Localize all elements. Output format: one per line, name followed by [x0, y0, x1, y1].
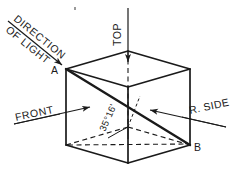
right-side-label-underline [182, 117, 226, 127]
hidden-edge-back-bottom-right [128, 127, 190, 145]
top-edge-front-to-a [66, 69, 128, 87]
technical-drawing-figure: DIRECTION OF LIGHT TOP FRONT R. SIDE A B… [0, 0, 232, 171]
angle-leader-line [128, 96, 140, 127]
top-edge-a-to-back [66, 51, 128, 69]
top-edge-right-to-front [128, 69, 190, 87]
top-label: TOP [111, 23, 123, 46]
bottom-edge-front-right [128, 145, 190, 163]
cube-diagram-svg: DIRECTION OF LIGHT TOP FRONT R. SIDE A B… [0, 0, 232, 171]
point-a-label: A [51, 64, 58, 76]
angle-label: 35°16' [97, 102, 119, 133]
bottom-edge-left-front [66, 145, 128, 163]
point-b-label: B [194, 141, 201, 153]
right-side-label: R. SIDE [188, 96, 230, 116]
top-edge-back-to-right [128, 51, 190, 69]
hidden-edge-back-bottom-left [66, 127, 128, 145]
